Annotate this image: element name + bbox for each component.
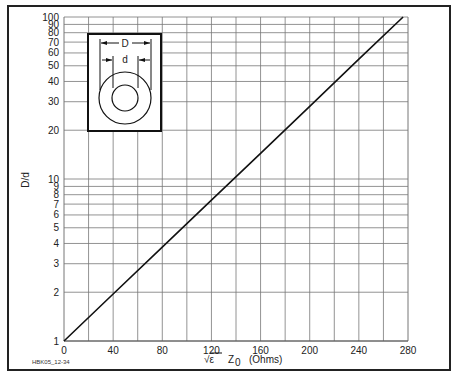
coax-impedance-chart: 123456789102030405060708090100 040801201… (0, 0, 458, 378)
outer-diameter-label: D (121, 38, 128, 49)
y-tick-label: 100 (42, 12, 59, 23)
y-tick-label: 70 (48, 37, 60, 48)
x-tick-label: 0 (61, 345, 67, 356)
x-tick-label: 280 (400, 345, 417, 356)
z-subscript: 0 (235, 357, 241, 368)
y-tick-label: 7 (53, 199, 59, 210)
z-symbol: Z (228, 354, 234, 365)
y-tick-label: 10 (48, 174, 60, 185)
x-tick-label: 200 (301, 345, 318, 356)
sqrt-epsilon: √ε (204, 354, 214, 365)
y-tick-label: 50 (48, 60, 60, 71)
y-axis-ticks: 123456789102030405060708090100 (42, 12, 59, 347)
x-axis-ticks: 04080120160200240280 (61, 345, 417, 356)
y-axis-label: D/d (20, 172, 31, 188)
x-tick-label: 80 (157, 345, 169, 356)
y-tick-label: 4 (53, 238, 59, 249)
y-tick-label: 6 (53, 209, 59, 220)
y-tick-label: 3 (53, 258, 59, 269)
y-tick-label: 20 (48, 125, 60, 136)
y-tick-label: 5 (53, 222, 59, 233)
y-tick-label: 2 (53, 287, 59, 298)
y-tick-label: 30 (48, 96, 60, 107)
coax-inset: D d (88, 34, 161, 131)
y-tick-label: 1 (53, 336, 59, 347)
y-tick-label: 40 (48, 76, 60, 87)
figure-id: HBK05_12-34 (32, 359, 70, 365)
x-tick-label: 240 (351, 345, 368, 356)
unit-label: (Ohms) (249, 354, 282, 365)
inner-diameter-label: d (122, 54, 128, 65)
y-tick-label: 60 (48, 47, 60, 58)
x-tick-label: 40 (108, 345, 120, 356)
